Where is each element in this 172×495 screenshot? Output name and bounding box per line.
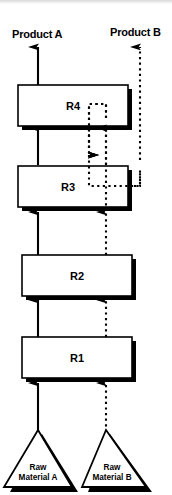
product-a-label: Product A xyxy=(12,28,63,40)
process-flow-diagram: Product A Product B R4 xyxy=(0,0,172,495)
unit-r1-label: R1 xyxy=(70,352,84,364)
feed-raw-material-a-line2: Material A xyxy=(19,473,58,482)
feed-raw-material-b[interactable]: Raw Material B xyxy=(82,430,152,492)
feed-raw-material-b-line2: Material B xyxy=(92,473,131,482)
unit-r2[interactable]: R2 xyxy=(22,255,136,300)
feed-raw-material-b-line1: Raw xyxy=(104,463,121,472)
product-b-label: Product B xyxy=(110,26,161,38)
feed-raw-material-a-line1: Raw xyxy=(30,463,47,472)
feed-raw-material-a[interactable]: Raw Material A xyxy=(4,430,78,492)
unit-r3[interactable]: R3 xyxy=(18,166,132,211)
unit-r4-label: R4 xyxy=(66,100,81,112)
unit-r2-label: R2 xyxy=(70,270,84,282)
unit-r4[interactable]: R4 xyxy=(18,85,132,130)
unit-r3-label: R3 xyxy=(61,181,75,193)
diagram-canvas: Product A Product B R4 xyxy=(0,0,172,495)
unit-r1[interactable]: R1 xyxy=(22,337,136,382)
